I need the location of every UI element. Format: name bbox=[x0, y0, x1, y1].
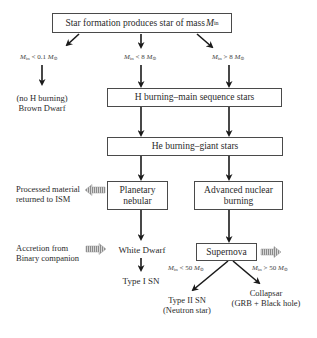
accretion-label: Accretion from Binary companion bbox=[16, 243, 79, 263]
hatched-arrow-ism bbox=[85, 185, 105, 196]
type2-line2: (Neutron star) bbox=[156, 305, 218, 315]
star-formation-text: Star formation produces star of mass bbox=[65, 18, 205, 29]
supernova-text: Supernova bbox=[206, 247, 247, 258]
h-burning-box: H burning–main sequence stars bbox=[107, 88, 282, 107]
collapsar-line1: Collapsar bbox=[225, 288, 307, 298]
mass-subscript: in bbox=[214, 18, 219, 29]
planetary-line1: Planetary bbox=[120, 185, 156, 196]
condition-sn-low: Min < 50 M⊙ bbox=[168, 264, 204, 272]
hatched-arrow-supernova bbox=[261, 247, 281, 258]
supernova-box: Supernova bbox=[196, 243, 257, 261]
mass-symbol: M bbox=[206, 18, 214, 29]
type2-sn-label: Type II SN (Neutron star) bbox=[156, 295, 218, 315]
type2-line1: Type II SN bbox=[156, 295, 218, 305]
type1-sn-label: Type I SN bbox=[115, 276, 167, 286]
ism-line1: Processed material bbox=[16, 184, 80, 194]
h-burning-text: H burning–main sequence stars bbox=[135, 92, 255, 103]
planetary-nebula-box: Planetary nebular bbox=[107, 181, 168, 210]
star-formation-box: Star formation produces star of mass Min bbox=[52, 13, 232, 33]
hatched-arrow-accretion bbox=[86, 244, 106, 255]
collapsar-line2: (GRB + Black hole) bbox=[225, 298, 307, 308]
advanced-line1: Advanced nuclear bbox=[204, 185, 273, 196]
planetary-line2: nebular bbox=[123, 196, 152, 207]
brown-dwarf-line1: (no H burning) bbox=[10, 93, 74, 103]
condition-mid-mass: Min < 8 M⊙ bbox=[124, 53, 156, 61]
advanced-burning-box: Advanced nuclear burning bbox=[194, 181, 283, 210]
ism-label: Processed material returned to ISM bbox=[16, 184, 80, 204]
brown-dwarf-label: (no H burning) Brown Dwarf bbox=[10, 93, 74, 113]
white-dwarf-label: White Dwarf bbox=[110, 245, 174, 255]
ism-line2: returned to ISM bbox=[16, 194, 80, 204]
condition-high-mass: Min > 8 M⊙ bbox=[212, 53, 244, 61]
accretion-line1: Accretion from bbox=[16, 243, 79, 253]
he-burning-text: He burning–giant stars bbox=[152, 141, 239, 152]
accretion-line2: Binary companion bbox=[16, 253, 79, 263]
condition-sn-high: Min > 50 M⊙ bbox=[252, 264, 288, 272]
condition-low-mass: Min < 0.1 M⊙ bbox=[20, 53, 58, 61]
advanced-line2: burning bbox=[224, 196, 254, 207]
collapsar-label: Collapsar (GRB + Black hole) bbox=[225, 288, 307, 308]
brown-dwarf-line2: Brown Dwarf bbox=[10, 103, 74, 113]
he-burning-box: He burning–giant stars bbox=[107, 137, 283, 156]
